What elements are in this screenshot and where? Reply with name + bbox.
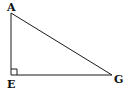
right-angle-marker [11, 69, 17, 75]
vertex-label-a: A [6, 1, 16, 14]
triangle-diagram: A E G [0, 0, 127, 97]
vertex-label-e: E [7, 78, 15, 91]
vertex-label-g: G [114, 73, 123, 86]
side-ag [11, 13, 112, 75]
